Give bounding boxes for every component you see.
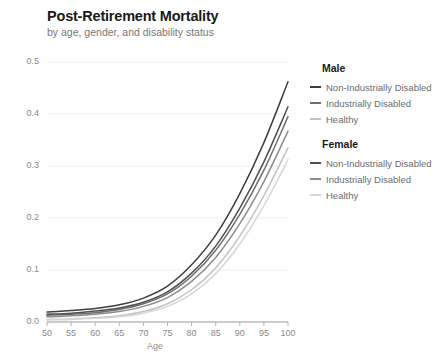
series-line xyxy=(47,82,288,312)
y-tick-label: 0.4 xyxy=(11,108,39,118)
legend-item-label: Non-Industrially Disabled xyxy=(326,158,432,169)
legend-line-icon xyxy=(310,194,321,196)
legend-item[interactable]: Industrially Disabled xyxy=(310,171,440,187)
x-axis-title: Age xyxy=(0,341,310,351)
legend-group: MaleNon-Industrially DisabledIndustriall… xyxy=(310,62,440,127)
legend-line-icon xyxy=(310,162,321,164)
legend-item-label: Healthy xyxy=(326,190,358,201)
plot-area xyxy=(0,0,310,356)
chart-container: Post-Retirement Mortality by age, gender… xyxy=(0,0,440,356)
legend-item-label: Industrially Disabled xyxy=(326,174,411,185)
x-tick-label: 70 xyxy=(131,328,155,338)
legend-item-label: Healthy xyxy=(326,114,358,125)
legend-group: FemaleNon-Industrially DisabledIndustria… xyxy=(310,138,440,203)
x-tick-label: 80 xyxy=(180,328,204,338)
y-tick-label: 0.5 xyxy=(11,56,39,66)
plot-svg xyxy=(0,0,310,356)
legend-group-header: Female xyxy=(322,138,440,150)
series-line xyxy=(47,131,288,317)
x-tick-label: 100 xyxy=(276,328,300,338)
legend-item[interactable]: Non-Industrially Disabled xyxy=(310,79,440,95)
x-tick-label: 95 xyxy=(252,328,276,338)
series-line xyxy=(47,107,288,314)
x-tick-label: 50 xyxy=(35,328,59,338)
series-line xyxy=(47,160,288,320)
x-tick-label: 75 xyxy=(156,328,180,338)
x-tick-label: 65 xyxy=(107,328,131,338)
legend-item[interactable]: Healthy xyxy=(310,187,440,203)
legend-line-icon xyxy=(310,102,321,104)
x-tick-label: 90 xyxy=(228,328,252,338)
chart-legend: MaleNon-Industrially DisabledIndustriall… xyxy=(310,62,440,214)
legend-item[interactable]: Healthy xyxy=(310,111,440,127)
y-tick-label: 0.3 xyxy=(11,160,39,170)
legend-line-icon xyxy=(310,86,321,88)
legend-line-icon xyxy=(310,118,321,120)
legend-group-header: Male xyxy=(322,62,440,74)
x-tick-label: 85 xyxy=(204,328,228,338)
y-tick-label: 0.2 xyxy=(11,212,39,222)
legend-item-label: Industrially Disabled xyxy=(326,98,411,109)
legend-line-icon xyxy=(310,178,321,180)
legend-item[interactable]: Non-Industrially Disabled xyxy=(310,155,440,171)
x-tick-label: 60 xyxy=(83,328,107,338)
legend-item-label: Non-Industrially Disabled xyxy=(326,82,432,93)
y-tick-label: 0.0 xyxy=(11,316,39,326)
x-tick-label: 55 xyxy=(59,328,83,338)
legend-item[interactable]: Industrially Disabled xyxy=(310,95,440,111)
y-tick-label: 0.1 xyxy=(11,264,39,274)
